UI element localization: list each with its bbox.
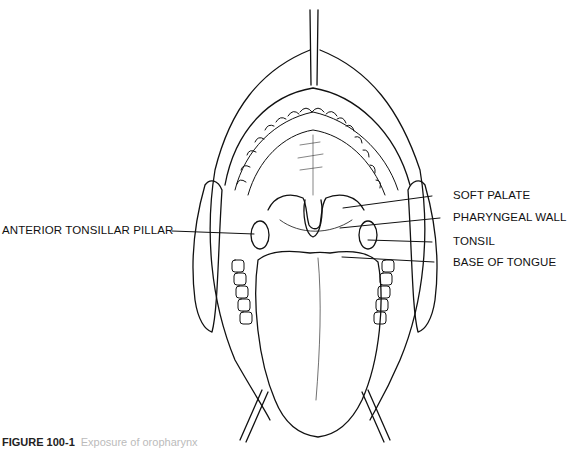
tongue-midline: [316, 258, 320, 400]
outer-lip-outline: [210, 50, 425, 420]
left-cheek-retractor: [193, 181, 222, 332]
figure-caption-text: Exposure of oropharynx: [81, 436, 198, 448]
label-soft-palate: SOFT PALATE: [453, 189, 530, 201]
left-tonsil: [251, 221, 269, 249]
right-cheek-retractor: [408, 181, 437, 332]
label-pharyngeal-wall: PHARYNGEAL WALL: [453, 211, 567, 223]
upper-retractor: [310, 10, 318, 85]
label-tonsil: TONSIL: [453, 235, 495, 247]
figure-number: FIGURE 100-1: [2, 436, 75, 448]
label-anterior-tonsillar-pillar: ANTERIOR TONSILLAR PILLAR: [2, 224, 173, 236]
upper-gum-outline: [225, 88, 410, 185]
lower-retractors: [240, 390, 390, 442]
pharyngeal-wall: [280, 220, 352, 231]
tongue: [256, 251, 381, 437]
hard-palate: [298, 135, 323, 195]
figure-caption: FIGURE 100-1Exposure of oropharynx: [2, 436, 198, 448]
label-base-of-tongue: BASE OF TONGUE: [453, 256, 556, 268]
soft-palate: [268, 195, 364, 229]
